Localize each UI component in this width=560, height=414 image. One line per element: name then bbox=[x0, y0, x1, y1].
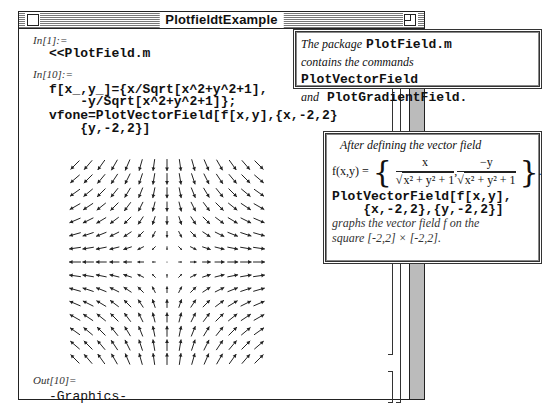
vector-arrow bbox=[97, 189, 105, 197]
zoom-box[interactable] bbox=[404, 14, 416, 26]
callout-outro-1: graphs the vector field f on the bbox=[332, 216, 533, 231]
arrow-head bbox=[165, 181, 169, 185]
vector-arrow bbox=[71, 161, 80, 170]
input-cell-1[interactable]: <<PlotField.m bbox=[49, 47, 150, 60]
vector-arrow bbox=[228, 287, 238, 292]
vector-arrow bbox=[166, 231, 169, 238]
vector-arrow bbox=[228, 232, 238, 237]
vector-arrow bbox=[110, 287, 119, 292]
radicand: x² + y² + 1 bbox=[402, 172, 454, 187]
vector-arrow bbox=[179, 313, 183, 323]
arrow-head bbox=[109, 260, 113, 264]
vector-arrow bbox=[253, 218, 264, 223]
vector-arrow bbox=[138, 326, 143, 336]
arrow-head bbox=[165, 195, 169, 199]
vector-arrow bbox=[96, 247, 107, 251]
output-cell-10[interactable]: -Graphics- bbox=[49, 390, 127, 403]
input-cell-10-line-2[interactable]: -y/Sqrt[x^2+y^2+1]}; bbox=[49, 95, 236, 108]
vector-arrow bbox=[204, 188, 210, 198]
vector-arrow bbox=[204, 174, 209, 185]
vector-arrow bbox=[202, 260, 211, 264]
vector-arrow bbox=[83, 301, 94, 306]
vector-arrow bbox=[152, 313, 156, 323]
vector-arrow bbox=[97, 203, 106, 210]
vector-arrow bbox=[70, 189, 80, 196]
vector-arrow bbox=[240, 274, 251, 278]
vector-arrow bbox=[111, 354, 117, 365]
vector-arrow bbox=[215, 287, 224, 292]
arrow-head bbox=[234, 247, 238, 251]
vector-arrow bbox=[191, 202, 196, 211]
vector-arrow bbox=[202, 232, 210, 237]
cell-bracket-output[interactable] bbox=[388, 371, 393, 403]
denominator: √x² + y² + 1 bbox=[396, 172, 454, 188]
vector-arrow bbox=[191, 188, 196, 198]
formula: f(x,y) = { x√x² + y² + 1,−y√x² + y² + 1 … bbox=[332, 155, 533, 188]
vector-arrow bbox=[179, 287, 182, 293]
title-bar[interactable]: PlotfieldtExample bbox=[19, 12, 424, 29]
vector-arrow bbox=[229, 160, 236, 170]
vector-arrow bbox=[227, 247, 238, 251]
arrow-head bbox=[221, 260, 225, 264]
vector-arrow bbox=[241, 301, 252, 306]
vector-arrow bbox=[97, 314, 106, 321]
vector-arrow bbox=[178, 261, 182, 263]
formula-lhs: f(x,y) = bbox=[332, 164, 369, 178]
vector-arrow bbox=[166, 286, 169, 293]
vector-arrow bbox=[216, 174, 223, 184]
vector-arrow bbox=[97, 341, 105, 350]
vector-arrow bbox=[190, 274, 196, 277]
vector-arrow bbox=[138, 353, 142, 364]
vector-arrow bbox=[110, 300, 119, 307]
vector-arrow bbox=[97, 327, 105, 335]
arrow-head bbox=[82, 260, 86, 264]
vector-arrow bbox=[82, 247, 93, 251]
arrow-head bbox=[181, 261, 182, 263]
input-cell-10-line-4[interactable]: {y,-2,2}] bbox=[49, 122, 150, 135]
vector-arrow bbox=[138, 287, 144, 293]
vector-arrow bbox=[152, 231, 155, 237]
vector-arrow bbox=[125, 188, 131, 198]
vector-arrow bbox=[124, 202, 131, 211]
arrow-head bbox=[166, 274, 168, 275]
vector-arrow bbox=[217, 354, 223, 365]
vector-arrow bbox=[138, 173, 142, 184]
vector-arrow bbox=[166, 274, 168, 278]
fraction-y: −y√x² + y² + 1 bbox=[457, 155, 515, 188]
vector-arrow bbox=[179, 231, 182, 237]
vector-arrow bbox=[109, 260, 119, 264]
arrow-head bbox=[166, 286, 169, 289]
vector-arrow bbox=[83, 218, 94, 223]
callout-text: contains the commands bbox=[301, 55, 414, 69]
vector-arrow bbox=[179, 339, 183, 350]
arrow-head bbox=[165, 312, 169, 316]
vector-arrow bbox=[228, 314, 237, 321]
vector-arrow bbox=[165, 326, 169, 337]
vector-arrow bbox=[242, 354, 250, 363]
vector-arrow bbox=[125, 159, 130, 170]
vector-arrow bbox=[96, 218, 106, 224]
vector-arrow bbox=[138, 313, 143, 322]
vector-field-plot[interactable] bbox=[67, 157, 267, 367]
vector-arrow bbox=[240, 232, 251, 236]
vector-arrow bbox=[138, 274, 144, 277]
vector-arrow bbox=[125, 174, 130, 185]
vector-arrow bbox=[96, 260, 107, 264]
vector-arrow bbox=[228, 203, 237, 210]
vector-arrow bbox=[165, 339, 169, 350]
vector-arrow bbox=[253, 274, 265, 278]
arrow-head bbox=[235, 260, 239, 264]
vector-arrow bbox=[96, 232, 106, 237]
arrow-head bbox=[179, 313, 183, 317]
vector-arrow bbox=[179, 353, 183, 365]
close-box[interactable] bbox=[27, 14, 39, 26]
vector-arrow bbox=[152, 159, 156, 171]
vector-arrow bbox=[241, 327, 250, 335]
callout-text: and bbox=[301, 90, 319, 104]
input-label-10: In[10]:= bbox=[33, 68, 73, 80]
vector-arrow bbox=[228, 218, 238, 224]
arrow-head bbox=[152, 313, 156, 317]
vector-arrow bbox=[190, 261, 197, 264]
vector-arrow bbox=[84, 327, 93, 335]
left-brace: { bbox=[373, 154, 392, 189]
